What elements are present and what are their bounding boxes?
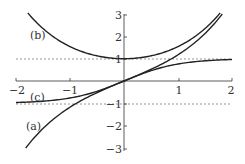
hyperbolic-functions-chart: −2 −1 1 2 3 2 1 −1 −2 −3 (b) (c) (a) — [0, 0, 245, 164]
x-tick-label: −2 — [9, 84, 25, 97]
y-tick-label: −2 — [106, 120, 122, 133]
y-tick-label: −3 — [106, 143, 122, 156]
curve-label-b: (b) — [30, 29, 46, 42]
curve-label-a: (a) — [26, 120, 41, 133]
x-tick-label: −1 — [62, 84, 78, 97]
x-tick-label: 1 — [176, 84, 183, 97]
x-tick-label: 2 — [228, 84, 235, 97]
curve-label-c: (c) — [30, 91, 45, 104]
y-tick-label: 2 — [115, 31, 122, 44]
y-ticks — [124, 15, 127, 149]
y-tick-label: 3 — [115, 9, 122, 22]
y-tick-label: 1 — [115, 53, 122, 66]
y-tick-label: −1 — [106, 98, 122, 111]
